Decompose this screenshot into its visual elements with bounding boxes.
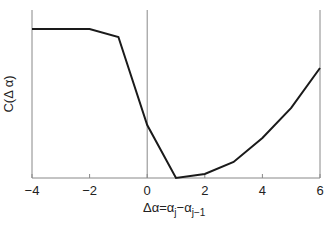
y-axis-label: C(Δ α) xyxy=(1,75,16,112)
x-tick-label: 2 xyxy=(201,183,208,198)
axes-frame xyxy=(32,10,320,178)
x-tick-label: 6 xyxy=(316,183,323,198)
x-tick-label: 0 xyxy=(144,183,151,198)
x-tick-label: −2 xyxy=(82,183,97,198)
x-axis-label: Δα=αj−αj−1 xyxy=(143,200,206,218)
chart: −4−20246 C(Δ α) Δα=αj−αj−1 xyxy=(0,0,334,227)
x-tick-label: 4 xyxy=(259,183,266,198)
data-line xyxy=(32,29,320,178)
x-tick-label: −4 xyxy=(25,183,40,198)
